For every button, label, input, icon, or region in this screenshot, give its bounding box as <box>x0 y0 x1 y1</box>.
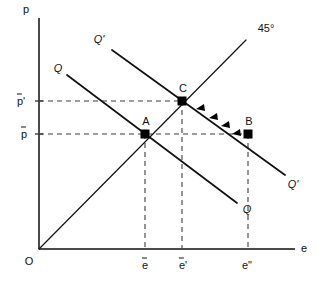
p-bar-prime-base: p <box>17 96 23 107</box>
point-marker-B <box>244 130 252 138</box>
curve-label-Q-prime-end: Q' <box>288 179 299 190</box>
adjustment-arrow-2 <box>209 113 218 120</box>
adjustment-arrow-3 <box>221 121 230 128</box>
curve-label-Q-prime-start: Q' <box>94 34 105 45</box>
y-tick-label-p-bar: p <box>21 129 27 140</box>
point-marker-A <box>141 130 149 138</box>
adjustment-arrows-group <box>196 104 241 136</box>
x-tick-label-e-bar: e <box>142 260 148 271</box>
diagram-canvas <box>0 0 318 282</box>
p-bar-prime-mark: ' <box>23 95 25 107</box>
e-double-prime-mark: " <box>248 259 252 271</box>
e-bar-base: e <box>142 260 148 271</box>
curve-label-Q-start: Q <box>54 63 63 74</box>
p-bar-base: p <box>21 129 27 140</box>
adjustment-arrow-1 <box>196 104 205 111</box>
curve-Q-prime <box>112 50 285 175</box>
x-tick-label-e-bar-prime: e' <box>179 260 187 271</box>
x-tick-label-e-double-prime: e" <box>242 260 252 271</box>
adjustment-arrow-4 <box>232 129 241 136</box>
x-axis-label: e <box>301 243 307 254</box>
origin-label: O <box>25 256 34 267</box>
y-axis-label: p <box>23 4 29 15</box>
point-markers-group <box>141 97 252 138</box>
curve-Q <box>67 75 237 203</box>
economics-diagram-figure: p e O p' p e e' e" Q Q Q' Q' 45° A C B <box>0 0 318 282</box>
e-bar-prime-mark: ' <box>185 259 187 271</box>
point-label-A: A <box>142 116 149 127</box>
curve-label-Q-end: Q <box>243 204 252 215</box>
point-label-B: B <box>245 116 252 127</box>
e-bar-prime-base: e <box>179 260 185 271</box>
point-label-C: C <box>179 83 187 94</box>
forty-five-degree-label: 45° <box>258 23 275 34</box>
y-tick-label-p-bar-prime: p' <box>17 96 25 107</box>
point-marker-C <box>178 97 186 105</box>
